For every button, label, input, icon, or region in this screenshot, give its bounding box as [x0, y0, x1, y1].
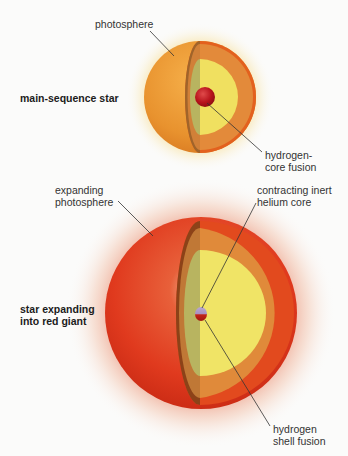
label-hydrogen-shell-fusion: hydrogen shell fusion	[273, 423, 326, 447]
label-expanding-photosphere: expanding photosphere	[55, 184, 113, 208]
main-sequence-star	[126, 23, 274, 171]
label-shell-line2: shell fusion	[273, 435, 326, 447]
stellar-evolution-diagram	[0, 0, 348, 456]
red-giant-title: star expanding into red giant	[20, 303, 95, 327]
label-core-line2: core fusion	[265, 161, 316, 173]
label-helium-line2: helium core	[257, 196, 332, 208]
label-shell-line1: hydrogen	[273, 423, 326, 435]
label-contracting-helium-core: contracting inert helium core	[257, 184, 332, 208]
red-giant-star	[66, 178, 336, 448]
label-expanding-line2: photosphere	[55, 196, 113, 208]
label-hydrogen-core-fusion: hydrogen- core fusion	[265, 149, 316, 173]
label-photosphere: photosphere	[95, 18, 153, 30]
red-giant-title-line2: into red giant	[20, 315, 95, 327]
red-giant-helium-core	[195, 307, 207, 321]
label-core-line1: hydrogen-	[265, 149, 316, 161]
label-expanding-line1: expanding	[55, 184, 113, 196]
main-sequence-title: main-sequence star	[20, 92, 119, 104]
red-giant-title-line1: star expanding	[20, 303, 95, 315]
label-helium-line1: contracting inert	[257, 184, 332, 196]
main-sequence-core	[195, 87, 215, 107]
